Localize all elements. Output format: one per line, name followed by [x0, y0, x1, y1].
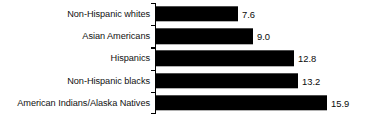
- category-label: Non-Hispanic whites: [0, 9, 150, 20]
- bar-value-label: 9.0: [257, 31, 270, 42]
- bar: [156, 73, 298, 88]
- bar-row: Hispanics 12.8: [0, 47, 370, 69]
- bar-value-label: 13.2: [302, 75, 320, 86]
- bar-chart: Non-Hispanic whites 7.6 Asian Americans …: [0, 0, 370, 117]
- category-label: Asian Americans: [0, 31, 150, 42]
- bar-value-label: 15.9: [331, 97, 349, 108]
- category-label: Non-Hispanic blacks: [0, 75, 150, 86]
- bar-value-label: 7.6: [242, 9, 255, 20]
- bar: [156, 6, 238, 21]
- bar: [156, 51, 294, 66]
- category-label: American Indians/Alaska Natives: [0, 97, 150, 108]
- bar-row: American Indians/Alaska Natives 15.9: [0, 92, 370, 114]
- bar: [156, 29, 253, 44]
- bar-row: Non-Hispanic blacks 13.2: [0, 70, 370, 92]
- bar-row: Non-Hispanic whites 7.6: [0, 3, 370, 25]
- bar-value-label: 12.8: [298, 53, 316, 64]
- bar: [156, 95, 327, 110]
- bar-row: Asian Americans 9.0: [0, 25, 370, 47]
- category-label: Hispanics: [0, 53, 150, 64]
